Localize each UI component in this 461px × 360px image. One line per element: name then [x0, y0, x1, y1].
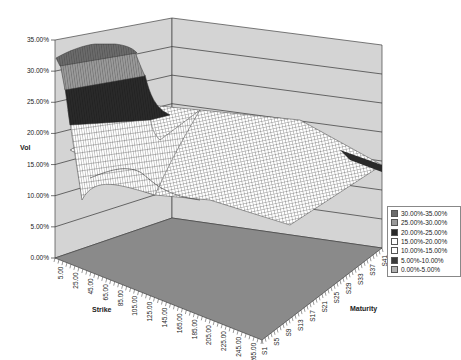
legend-entry: 10.00%-15.00%	[391, 246, 457, 255]
legend-label: 5.00%-10.00%	[401, 257, 444, 264]
maturity-tick-label: S5	[273, 337, 280, 345]
maturity-tick-label: S21	[321, 301, 328, 313]
maturity-tick-label: S1	[261, 347, 268, 355]
chart-legend: 30.00%-35.00%25.00%-30.00%20.00%-25.00%1…	[387, 206, 461, 277]
legend-label: 10.00%-15.00%	[401, 247, 447, 254]
strike-tick-label: 105.00	[131, 295, 138, 315]
vol-tick-label: 20.00%	[27, 129, 49, 136]
vol-tick-label: 5.00%	[31, 223, 50, 230]
maturity-tick-label: S25	[333, 291, 340, 303]
legend-swatch-icon	[391, 210, 398, 217]
legend-swatch-icon	[391, 229, 398, 236]
maturity-axis-label: Maturity	[350, 305, 377, 313]
legend-entry: 25.00%-30.00%	[391, 218, 457, 227]
vol-axis-label: Vol	[20, 144, 30, 151]
maturity-tick-label: S13	[297, 319, 304, 331]
vol-tick-label: 0.00%	[31, 254, 50, 261]
strike-tick-label: 185.00	[191, 319, 198, 339]
maturity-tick-label: S17	[309, 310, 316, 322]
legend-label: 15.00%-20.00%	[401, 238, 447, 245]
strike-tick-label: 165.00	[176, 313, 183, 333]
vol-tick-label: 35.00%	[27, 36, 49, 43]
strike-tick-label: 225.00	[220, 331, 227, 351]
legend-entry: 15.00%-20.00%	[391, 237, 457, 246]
legend-swatch-icon	[391, 266, 398, 273]
maturity-tick-label: S9	[285, 328, 292, 336]
strike-tick-label: 45.00	[87, 278, 94, 295]
strike-tick-label: 65.00	[102, 284, 109, 301]
legend-label: 0.00%-5.00%	[401, 266, 440, 273]
maturity-tick-label: S29	[345, 282, 352, 294]
vol-axis: 0.00%5.00%10.00%15.00%20.00%25.00%30.00%…	[27, 36, 55, 261]
legend-entry: 5.00%-10.00%	[391, 255, 457, 264]
legend-swatch-icon	[391, 247, 398, 254]
strike-tick-label: 5.00	[57, 266, 64, 279]
legend-label: 25.00%-30.00%	[401, 219, 447, 226]
strike-tick-label: 245.00	[235, 336, 242, 356]
legend-entry: 20.00%-25.00%	[391, 228, 457, 237]
legend-swatch-icon	[391, 219, 398, 226]
strike-tick-label: 145.00	[161, 307, 168, 327]
strike-tick-label: 85.00	[117, 290, 124, 307]
strike-axis-label: Strike	[92, 306, 112, 313]
legend-entry: 0.00%-5.00%	[391, 265, 457, 274]
strike-tick-label: 125.00	[146, 301, 153, 321]
vol-tick-label: 30.00%	[27, 67, 49, 74]
legend-label: 30.00%-35.00%	[401, 210, 447, 217]
strike-tick-label: 265.00	[250, 342, 257, 360]
strike-tick-label: 25.00	[72, 272, 79, 289]
maturity-tick-label: S33	[357, 273, 364, 285]
legend-swatch-icon	[391, 238, 398, 245]
vol-tick-label: 10.00%	[27, 192, 49, 199]
legend-label: 20.00%-25.00%	[401, 229, 447, 236]
vol-tick-label: 25.00%	[27, 98, 49, 105]
vol-tick-label: 15.00%	[27, 161, 49, 168]
maturity-tick-label: S37	[369, 264, 376, 276]
legend-entry: 30.00%-35.00%	[391, 209, 457, 218]
strike-tick-label: 205.00	[205, 325, 212, 345]
legend-swatch-icon	[391, 257, 398, 264]
